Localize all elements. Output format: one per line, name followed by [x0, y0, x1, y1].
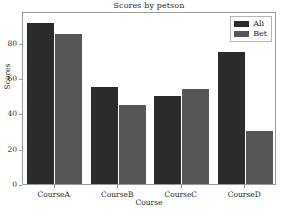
legend-item: Ali: [234, 19, 267, 29]
bar: [246, 131, 273, 184]
y-tick-label: 60: [7, 74, 17, 83]
bar: [119, 105, 146, 184]
bar: [154, 96, 181, 184]
y-tick: 20: [0, 150, 22, 151]
y-tick: 60: [0, 79, 22, 80]
legend-label: Bet: [253, 29, 267, 39]
y-tick: 40: [0, 114, 22, 115]
legend-swatch: [234, 21, 249, 27]
legend-label: Ali: [253, 19, 264, 29]
y-tick-label: 80: [7, 39, 17, 48]
x-tick-mark: [181, 185, 182, 188]
x-tick-mark: [54, 185, 55, 188]
legend-item: Bet: [234, 29, 267, 39]
chart-legend: AliBet: [230, 16, 272, 42]
bar: [182, 89, 209, 184]
chart-title: Scores by petson: [22, 1, 276, 10]
bar: [218, 52, 245, 184]
legend-swatch: [234, 31, 249, 37]
y-tick-mark: [19, 185, 22, 186]
bar: [91, 87, 118, 184]
x-tick-mark: [244, 185, 245, 188]
bar: [55, 34, 82, 184]
x-axis-label: Course: [22, 198, 276, 207]
y-tick: 80: [0, 44, 22, 45]
plot-area: AliBet: [22, 12, 276, 185]
chart-container: Scores by petson Scores 020406080 AliBet…: [0, 0, 285, 217]
y-tick-label: 0: [12, 180, 17, 189]
bar: [27, 23, 54, 184]
y-tick-label: 20: [7, 145, 17, 154]
x-tick-mark: [117, 185, 118, 188]
y-tick: 0: [0, 185, 22, 186]
y-tick-label: 40: [7, 109, 17, 118]
